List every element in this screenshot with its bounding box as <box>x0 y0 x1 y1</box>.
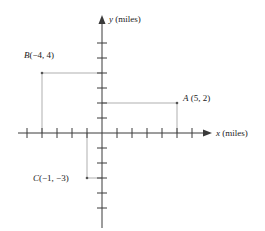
point-label-b: B(−4, 4) <box>24 50 54 60</box>
point-label-a-coords: (5, 2) <box>191 93 211 103</box>
x-axis-label-unit: (miles) <box>222 128 248 138</box>
point-marker-c <box>86 177 89 180</box>
point-marker-a <box>176 102 179 105</box>
point-label-a: A (5, 2) <box>182 93 210 103</box>
point-label-c: C(−1, −3) <box>33 173 69 183</box>
y-axis-label-unit: (miles) <box>115 14 141 24</box>
coordinate-plane-svg: x (miles) y (miles) A (5, 2) B(−4, 4) C(… <box>0 0 265 231</box>
data-points <box>41 72 179 180</box>
y-axis <box>97 15 107 228</box>
point-label-b-coords: (−4, 4) <box>30 50 55 60</box>
point-marker-b <box>41 72 44 75</box>
x-axis-label: x (miles) <box>215 128 248 138</box>
x-axis <box>18 128 212 138</box>
connector-lines <box>42 73 177 178</box>
y-axis-arrowhead <box>99 15 106 24</box>
x-axis-arrowhead <box>203 130 212 137</box>
coordinate-plane-figure: x (miles) y (miles) A (5, 2) B(−4, 4) C(… <box>0 0 265 231</box>
point-label-c-coords: (−1, −3) <box>39 173 69 183</box>
y-axis-label: y (miles) <box>108 14 141 24</box>
